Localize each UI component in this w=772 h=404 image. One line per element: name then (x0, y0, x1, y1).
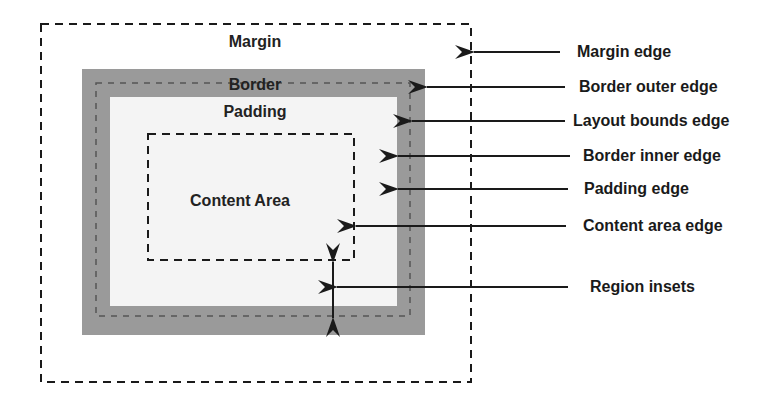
box-model-diagram: Margin Border Padding Content Area Margi… (0, 0, 772, 404)
margin-label: Margin (229, 33, 281, 50)
label-padding-edge: Padding edge (584, 180, 689, 197)
border-label: Border (229, 76, 281, 93)
label-border-inner-edge: Border inner edge (583, 147, 721, 164)
label-border-outer-edge: Border outer edge (579, 78, 718, 95)
label-content-area-edge: Content area edge (583, 217, 723, 234)
label-region-insets: Region insets (590, 278, 695, 295)
padding-label: Padding (223, 103, 286, 120)
label-margin-edge: Margin edge (577, 43, 671, 60)
content-area-label: Content Area (190, 192, 290, 209)
label-layout-bounds-edge: Layout bounds edge (573, 112, 730, 129)
